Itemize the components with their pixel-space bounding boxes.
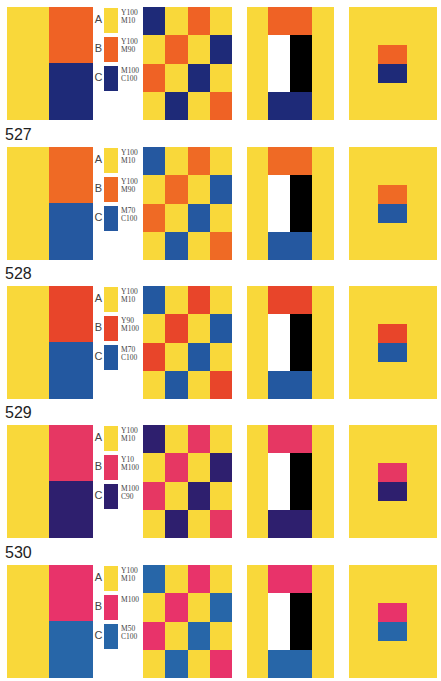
target-b <box>378 463 407 482</box>
checker-cell <box>165 175 187 203</box>
checker-cell <box>188 232 210 260</box>
checker-cell <box>143 204 165 232</box>
checker-cell <box>165 565 187 593</box>
split-panel-c <box>49 203 93 260</box>
color-code-b: M100 <box>121 596 145 604</box>
checkerboard <box>143 565 232 678</box>
door-bottom-c <box>268 510 312 538</box>
checker-cell <box>188 147 210 175</box>
door-white <box>268 453 290 510</box>
door-panel <box>247 147 334 260</box>
checker-cell <box>165 482 187 510</box>
checkerboard <box>143 425 232 538</box>
door-black <box>290 453 312 510</box>
checker-cell <box>165 286 187 314</box>
checker-cell <box>188 371 210 399</box>
checker-cell <box>165 510 187 538</box>
split-panel-a <box>7 147 49 260</box>
swatch-letter-b: B <box>94 182 103 194</box>
color-code-c: M100 C90 <box>121 485 145 501</box>
checker-cell <box>188 343 210 371</box>
checker-cell <box>188 650 210 678</box>
swatch-letter-a: A <box>94 153 103 165</box>
door-top-b <box>268 425 312 453</box>
door-top-b <box>268 286 312 314</box>
color-swatch-c <box>104 206 118 231</box>
target-panel <box>349 286 437 399</box>
checker-cell <box>210 232 232 260</box>
split-panel-b <box>49 147 93 203</box>
target-c <box>378 343 407 362</box>
split-panel <box>7 286 93 399</box>
plate-row-530: 530 AY100 M10BM100CM50 C100 <box>0 0 441 140</box>
checker-cell <box>188 482 210 510</box>
checker-cell <box>210 371 232 399</box>
checker-cell <box>165 425 187 453</box>
split-panel-b <box>49 565 93 621</box>
checker-cell <box>188 622 210 650</box>
checker-cell <box>188 425 210 453</box>
door-panel <box>247 425 334 538</box>
swatch-letter-b: B <box>94 321 103 333</box>
checker-cell <box>188 510 210 538</box>
split-panel-a <box>7 286 49 399</box>
split-panel <box>7 425 93 538</box>
checker-cell <box>188 175 210 203</box>
checker-cell <box>143 286 165 314</box>
swatch-letter-c: C <box>94 489 103 501</box>
checker-cell <box>165 622 187 650</box>
checker-cell <box>165 204 187 232</box>
plate-number: 529 <box>5 405 32 421</box>
door-panel <box>247 286 334 399</box>
checker-cell <box>143 371 165 399</box>
color-swatch-a <box>104 287 118 312</box>
checker-cell <box>210 425 232 453</box>
color-code-c: M50 C100 <box>121 625 145 641</box>
target-b <box>378 324 407 343</box>
checker-cell <box>143 314 165 342</box>
door-black <box>290 175 312 232</box>
target-c <box>378 622 407 641</box>
color-swatch-a <box>104 426 118 451</box>
checker-cell <box>165 453 187 481</box>
swatch-letter-a: A <box>94 571 103 583</box>
swatch-letter-b: B <box>94 600 103 612</box>
color-code-a: Y100 M10 <box>121 427 145 443</box>
checker-cell <box>210 622 232 650</box>
target-c <box>378 482 407 501</box>
checker-cell <box>188 565 210 593</box>
checker-cell <box>188 314 210 342</box>
checker-cell <box>188 286 210 314</box>
checker-cell <box>143 593 165 621</box>
door-top-b <box>268 565 312 593</box>
color-code-b: Y100 M90 <box>121 178 145 194</box>
checker-cell <box>143 482 165 510</box>
checker-cell <box>143 565 165 593</box>
color-swatch-b <box>104 455 118 480</box>
target-c <box>378 204 407 223</box>
swatch-letter-a: A <box>94 431 103 443</box>
checker-cell <box>165 371 187 399</box>
checker-cell <box>143 453 165 481</box>
checker-cell <box>210 482 232 510</box>
color-swatch-c <box>104 484 118 509</box>
target-b <box>378 603 407 622</box>
checker-cell <box>188 204 210 232</box>
color-code-a: Y100 M10 <box>121 567 145 583</box>
color-swatch-c <box>104 624 118 649</box>
color-code-c: M70 C100 <box>121 207 145 223</box>
checker-cell <box>165 147 187 175</box>
checker-cell <box>143 147 165 175</box>
split-panel-c <box>49 481 93 538</box>
checker-cell <box>143 425 165 453</box>
checker-cell <box>143 232 165 260</box>
color-swatch-b <box>104 177 118 202</box>
checker-cell <box>143 622 165 650</box>
split-panel-c <box>49 621 93 678</box>
door-top-b <box>268 147 312 175</box>
swatch-letter-c: C <box>94 350 103 362</box>
door-bottom-c <box>268 650 312 678</box>
door-bottom-c <box>268 371 312 399</box>
color-swatch-c <box>104 345 118 370</box>
door-white <box>268 593 290 650</box>
